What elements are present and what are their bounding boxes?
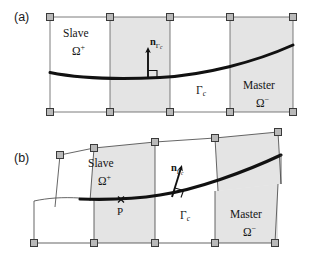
node-marker — [47, 109, 54, 116]
panel-a-slave-domain: Ω+ — [72, 44, 85, 57]
panel-b-slave-domain: Ω+ — [98, 174, 111, 187]
panel-a-slave-omega-sup: + — [81, 43, 86, 52]
panel-b-contact-surface-label: Γc — [180, 210, 190, 222]
panel-b-normal-gamma-c: c — [181, 170, 183, 176]
slave-mesh-v1 — [55, 155, 60, 207]
panel-a-master-label: Master — [243, 80, 275, 92]
node-marker — [212, 135, 219, 142]
shaded-column-2 — [110, 17, 170, 112]
panel-a-master-omega: Ω — [256, 97, 265, 109]
panel-a-master-domain: Ω− — [256, 96, 269, 109]
panel-a-contact-surface-label: Γc — [196, 85, 206, 97]
panel-a-normal-label: nΓc — [150, 37, 162, 48]
node-marker — [47, 14, 54, 21]
node-marker — [167, 14, 174, 21]
shaded-master-element-2 — [94, 196, 155, 243]
panel-b-slave-omega: Ω — [98, 175, 107, 187]
node-marker — [152, 240, 159, 247]
panel-a-slave-omega: Ω — [72, 45, 81, 57]
panel-a-tag: (a) — [14, 11, 29, 24]
node-marker — [272, 240, 279, 247]
panel-b-gamma: Γ — [180, 209, 187, 221]
shaded-slave-element-4 — [215, 132, 281, 191]
panel-a-slave-label: Slave — [63, 28, 89, 40]
panel-a-normal-gamma-c: c — [160, 44, 162, 50]
node-marker — [107, 109, 114, 116]
panel-b-gamma-sub: c — [187, 214, 190, 223]
panel-b-master-domain: Ω− — [243, 225, 256, 238]
node-marker — [91, 240, 98, 247]
node-marker — [167, 109, 174, 116]
master-top-left-overhang — [34, 198, 80, 201]
node-marker — [31, 240, 38, 247]
node-marker — [290, 14, 297, 21]
panel-b-master-label: Master — [230, 209, 262, 221]
node-marker — [290, 109, 297, 116]
node-marker — [152, 139, 159, 146]
panel-a-master-omega-sup: − — [265, 95, 270, 104]
panel-b-slave-label: Slave — [88, 158, 114, 170]
panel-b-tag: (b) — [14, 152, 29, 165]
node-marker — [57, 152, 64, 159]
node-marker — [107, 14, 114, 21]
node-marker — [227, 14, 234, 21]
panel-b-master-omega-sup: − — [252, 224, 257, 233]
node-marker — [91, 145, 98, 152]
panel-b-master-omega: Ω — [243, 226, 252, 238]
panel-a-gamma: Γ — [196, 84, 203, 96]
figure-canvas — [0, 0, 328, 260]
shaded-slave-element-2 — [90, 142, 155, 201]
panel-a-gamma-sub: c — [203, 89, 206, 98]
contact-mechanics-figure: (a) Slave Ω+ nΓc Γc Master Ω− (b) Slave … — [0, 0, 328, 260]
panel-b-slave-omega-sup: + — [107, 173, 112, 182]
panel-b-normal-label: nΓc — [171, 163, 183, 174]
node-marker — [275, 129, 282, 136]
node-marker — [212, 240, 219, 247]
node-marker — [227, 109, 234, 116]
panel-b-contact-point-label: P — [117, 206, 123, 217]
